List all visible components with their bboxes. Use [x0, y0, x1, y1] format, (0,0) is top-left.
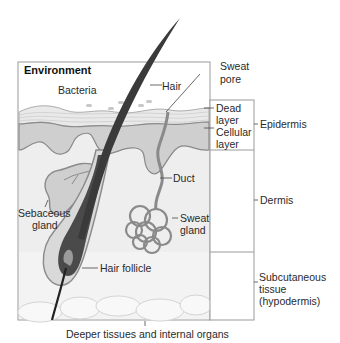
cellular-layer-label-2: layer [216, 138, 239, 150]
dead-layer-label-1: Dead [216, 102, 241, 114]
sebaceous-gland-label-1: Sebaceous [18, 207, 71, 219]
skin-diagram [0, 0, 340, 343]
hair-label: Hair [162, 80, 181, 92]
dermis-label: Dermis [260, 194, 293, 206]
subcutaneous-label-1: Subcutaneous [259, 271, 326, 283]
epidermis-label: Epidermis [260, 118, 307, 130]
sweat-pore-label-1: Sweat [220, 60, 249, 72]
duct-label: Duct [173, 172, 195, 184]
dead-layer-label-2: layer [216, 114, 239, 126]
hair-follicle-label: Hair follicle [100, 262, 151, 274]
environment-label: Environment [24, 64, 91, 76]
bacteria-label: Bacteria [58, 84, 97, 96]
subcutaneous-label-3: (hypodermis) [259, 295, 320, 307]
sweat-gland-label-2: gland [180, 224, 206, 236]
cellular-layer-label-1: Cellular [216, 126, 252, 138]
sweat-gland-label-1: Sweat [180, 212, 209, 224]
subcutaneous-label-2: tissue [259, 283, 286, 295]
sebaceous-gland-label-2: gland [32, 219, 58, 231]
footer-label: Deeper tissues and internal organs [66, 328, 229, 340]
sweat-pore-label-2: pore [220, 73, 241, 85]
